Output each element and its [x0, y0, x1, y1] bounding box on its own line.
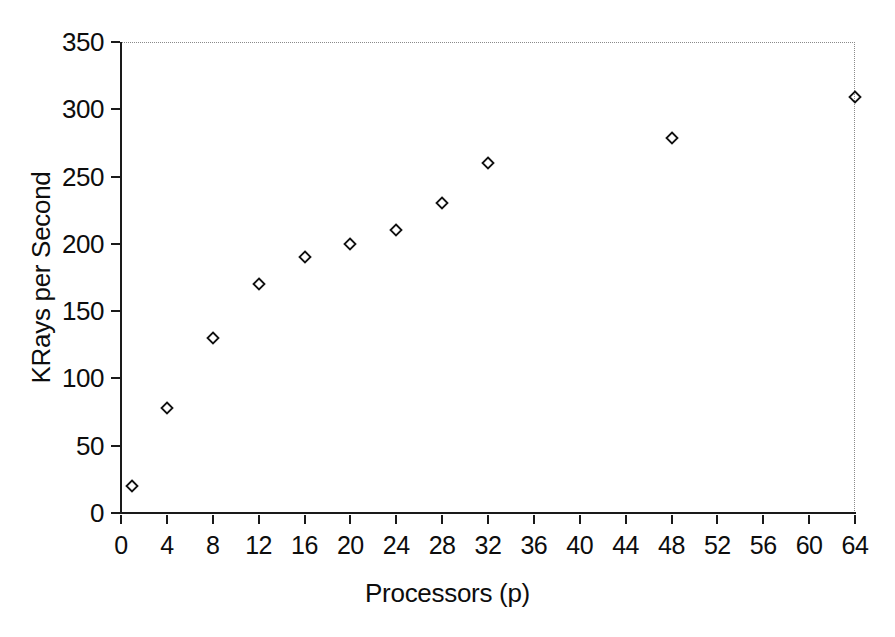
x-axis-tick: [533, 515, 535, 524]
y-axis-tick-label-text: 150: [62, 298, 104, 324]
data-point-marker: [436, 197, 448, 209]
x-axis-tick: [258, 515, 260, 524]
x-axis-tick: [671, 515, 673, 524]
y-axis-tick-label-text: 50: [76, 433, 104, 459]
y-axis-tick-label-text: 0: [90, 500, 104, 526]
y-axis-line: [120, 42, 122, 514]
x-axis-tick: [716, 515, 718, 524]
x-axis-tick: [304, 515, 306, 524]
x-axis-tick: [808, 515, 810, 524]
y-axis-tick: [111, 445, 120, 447]
x-axis-title: Processors (p): [0, 578, 895, 608]
data-point-marker: [390, 224, 402, 236]
y-axis-tick: [111, 41, 120, 43]
y-axis-tick-label-text: 100: [62, 365, 104, 391]
data-point-marker: [299, 251, 311, 263]
scatter-chart: 050100150200250300350 048121620242832364…: [0, 0, 895, 637]
y-axis-tick: [111, 310, 120, 312]
x-axis-tick-label: 64: [825, 533, 885, 558]
data-point-marker: [126, 480, 138, 492]
y-axis-title: KRays per Second: [24, 42, 58, 513]
x-axis-tick: [441, 515, 443, 524]
x-axis-tick: [120, 515, 122, 524]
x-axis-tick: [212, 515, 214, 524]
data-point-marker: [161, 402, 173, 414]
y-axis-tick: [111, 176, 120, 178]
y-axis-tick-label-text: 300: [62, 96, 104, 122]
data-point-marker: [253, 278, 265, 290]
data-point-marker: [849, 91, 861, 103]
x-axis-tick: [762, 515, 764, 524]
x-axis-tick: [349, 515, 351, 524]
data-point-marker: [344, 238, 356, 250]
x-axis-line: [120, 512, 856, 514]
data-point-marker: [666, 132, 678, 144]
x-axis-tick: [487, 515, 489, 524]
y-axis-tick-label-text: 350: [62, 29, 104, 55]
y-axis-tick-label-text: 250: [62, 164, 104, 190]
y-axis-tick: [111, 377, 120, 379]
y-axis-tick-label-text: 200: [62, 231, 104, 257]
data-point-marker: [207, 332, 219, 344]
x-axis-tick: [395, 515, 397, 524]
y-axis-tick: [111, 108, 120, 110]
x-axis-tick: [579, 515, 581, 524]
y-axis-tick: [111, 243, 120, 245]
x-axis-tick: [166, 515, 168, 524]
x-axis-tick: [854, 515, 856, 524]
plot-area: [121, 42, 855, 513]
data-point-marker: [482, 157, 494, 169]
y-axis-tick: [111, 512, 120, 514]
x-axis-tick: [625, 515, 627, 524]
